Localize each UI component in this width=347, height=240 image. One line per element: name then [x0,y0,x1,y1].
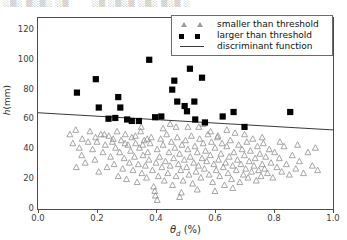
triangle-marker-icon [181,22,187,27]
data-point-triangle [227,137,233,143]
data-point-triangle [194,187,200,193]
data-point-triangle [277,139,283,145]
data-point-triangle [158,136,164,142]
data-point-square [115,94,121,100]
discriminant-function-line [38,113,333,130]
data-point-triangle [260,140,266,146]
data-point-triangle [247,148,253,154]
y-axis-tick-label: 20 [4,173,34,183]
x-axis-tick-label: 0.0 [31,213,45,223]
data-point-triangle [232,130,238,136]
cropped-text-left: ░▒░ ▒░▒░ ░▒ [3,0,69,7]
legend-item-smaller[interactable]: smaller than threshold [175,19,328,30]
data-point-triangle [168,139,174,145]
legend-item-larger[interactable]: larger than threshold [175,30,328,41]
data-point-triangle [113,145,119,151]
data-point-triangle [177,151,183,157]
data-point-triangle [159,164,165,170]
legend-marker-discriminant [175,41,217,52]
data-point-triangle [164,131,170,137]
data-point-triangle [190,181,196,187]
data-point-triangle [166,149,172,155]
data-point-triangle [150,167,156,173]
data-point-triangle [199,155,205,161]
data-point-square [136,118,142,124]
data-point-square [230,109,236,115]
data-point-triangle [114,128,120,134]
data-point-triangle [240,172,246,178]
legend-marker-larger [175,30,217,41]
data-point-triangle [161,178,167,184]
legend-label-smaller: smaller than threshold [217,19,319,30]
data-point-triangle [194,149,200,155]
data-point-triangle [259,134,265,140]
series-larger-than-threshold [74,57,293,130]
data-point-square [187,66,193,72]
data-point-triangle [139,170,145,176]
data-point-triangle [255,143,261,149]
data-point-square [96,104,102,110]
data-point-triangle [173,173,179,179]
data-point-triangle [104,164,110,170]
x-axis-label-units: (%) [184,224,201,235]
data-point-triangle [236,142,242,148]
data-point-triangle [242,152,248,158]
x-axis-tick-mark [274,209,275,213]
data-point-square [146,57,152,63]
y-axis-label-units: (mm) [2,85,12,110]
data-point-triangle [276,155,282,161]
data-point-triangle [121,155,127,161]
data-point-triangle [266,146,272,152]
x-axis-tick-label: 0.6 [208,213,222,223]
data-point-triangle [203,148,209,154]
data-point-triangle [181,157,187,163]
x-axis-tick-mark [156,209,157,213]
cropped-top-text-strip: ░▒░ ▒░▒░ ░▒ ░▒ ░▒░▒ ░▒░ ▒░▒ ░ [0,0,347,9]
legend-label-discriminant: discriminant function [217,41,312,52]
data-point-triangle [218,151,224,157]
data-point-triangle [155,173,161,179]
data-point-square [117,104,123,110]
data-point-triangle [138,124,144,130]
square-marker-icon [179,34,184,39]
data-point-triangle [108,154,114,160]
data-point-triangle [187,154,193,160]
data-point-square [169,87,175,93]
x-axis-tick-mark [215,209,216,213]
data-point-triangle [124,176,130,182]
data-point-square [202,119,208,125]
data-point-triangle [79,152,85,158]
data-point-triangle [132,154,138,160]
data-point-triangle [268,160,274,166]
data-point-triangle [173,124,179,130]
scatter-plot-figure: ░▒░ ▒░▒░ ░▒ ░▒ ░▒░▒ ░▒░ ▒░▒ ░ 0204060801… [0,0,347,240]
legend[interactable]: smaller than threshold larger than thres… [171,15,333,56]
data-point-triangle [283,161,289,167]
data-point-triangle [305,149,311,155]
x-axis-label-subscript: d [176,230,180,238]
data-point-triangle [82,160,88,166]
data-point-triangle [175,161,181,167]
data-point-triangle [76,145,82,151]
data-point-triangle [70,140,76,146]
data-point-triangle [73,164,79,170]
data-point-square [241,124,247,130]
data-point-triangle [87,128,93,134]
data-point-triangle [111,161,117,167]
y-axis-label-symbol: h [2,109,12,115]
data-point-triangle [312,145,318,151]
data-point-triangle [96,169,102,175]
data-point-triangle [115,173,121,179]
data-point-triangle [186,172,192,178]
data-point-triangle [192,143,198,149]
legend-item-discriminant[interactable]: discriminant function [175,41,328,52]
data-point-square [105,116,111,122]
data-point-triangle [135,161,141,167]
data-point-square [199,75,205,81]
data-point-triangle [246,158,252,164]
data-point-triangle [213,167,219,173]
triangle-marker-icon [197,22,203,27]
data-point-triangle [263,154,269,160]
data-point-triangle [230,185,236,191]
data-point-square [184,108,190,114]
